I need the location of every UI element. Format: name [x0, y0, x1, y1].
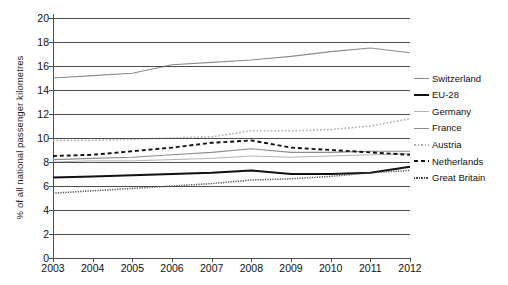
series-line-france: [53, 149, 410, 160]
legend-swatch-icon: [414, 90, 429, 100]
series-line-netherlands: [53, 140, 410, 156]
x-axis-tick-label: 2010: [319, 262, 342, 274]
y-axis-tick-mark: [49, 210, 54, 211]
legend-swatch-icon: [414, 106, 429, 116]
x-axis-tick-label: 2009: [279, 262, 302, 274]
x-axis-tick-label: 2004: [81, 262, 104, 274]
x-axis-tick-label: 2005: [121, 262, 144, 274]
legend-item-label: EU-28: [432, 90, 459, 100]
x-axis-tick-mark: [410, 258, 411, 262]
series-line-eu-28: [53, 167, 410, 178]
gridline: [53, 114, 410, 115]
y-axis-tick-mark: [49, 90, 54, 91]
x-axis-tick-label: 2006: [160, 262, 183, 274]
legend-item-germany[interactable]: Germany: [414, 103, 508, 120]
y-axis-tick-mark: [49, 114, 54, 115]
x-axis-tick-label: 2003: [41, 262, 64, 274]
x-axis-tick-label: 2008: [240, 262, 263, 274]
gridline: [53, 138, 410, 139]
x-axis-tick-mark: [331, 258, 332, 262]
y-axis-tick-mark: [49, 186, 54, 187]
legend-item-label: Austria: [432, 140, 462, 150]
y-axis-tick-mark: [49, 162, 54, 163]
x-axis-tick-mark: [212, 258, 213, 262]
legend-swatch-icon: [414, 173, 429, 183]
legend-item-switzerland[interactable]: Switzerland: [414, 70, 508, 87]
gridline: [53, 42, 410, 43]
y-axis-tick-mark: [49, 18, 54, 19]
plot-area: [53, 18, 410, 258]
y-axis-tick-label: 12: [37, 108, 49, 120]
legend-item-label: Germany: [432, 107, 471, 117]
chart-legend: SwitzerlandEU-28GermanyFranceAustriaNeth…: [414, 70, 508, 186]
legend-item-great-britain[interactable]: Great Britain: [414, 170, 508, 187]
y-axis-tick-mark: [49, 42, 54, 43]
y-axis-tick-label: 14: [37, 84, 49, 96]
gridline: [53, 210, 410, 211]
y-axis-tick-labels: 02468101214161820: [20, 0, 49, 285]
series-line-great-britain: [53, 170, 410, 193]
gridline: [53, 18, 410, 19]
gridline: [53, 258, 410, 259]
legend-item-label: Netherlands: [432, 157, 483, 167]
x-axis-tick-label: 2012: [398, 262, 421, 274]
x-axis-tick-label: 2007: [200, 262, 223, 274]
x-axis-tick-mark: [172, 258, 173, 262]
x-axis-tick-mark: [370, 258, 371, 262]
legend-item-netherlands[interactable]: Netherlands: [414, 153, 508, 170]
gridline: [53, 66, 410, 67]
x-axis-tick-mark: [93, 258, 94, 262]
x-axis-tick-mark: [132, 258, 133, 262]
legend-swatch-icon: [414, 73, 429, 83]
x-axis-tick-mark: [251, 258, 252, 262]
x-axis-tick-mark: [291, 258, 292, 262]
y-axis-tick-mark: [49, 234, 54, 235]
gridline: [53, 234, 410, 235]
y-axis-tick-label: 20: [37, 12, 49, 24]
legend-swatch-icon: [414, 140, 429, 150]
y-axis-tick-mark: [49, 138, 54, 139]
legend-item-france[interactable]: France: [414, 120, 508, 137]
legend-item-label: France: [432, 123, 462, 133]
y-axis-tick-label: 16: [37, 60, 49, 72]
series-line-switzerland: [53, 48, 410, 78]
y-axis-tick-mark: [49, 66, 54, 67]
legend-item-eu-28[interactable]: EU-28: [414, 87, 508, 104]
legend-item-label: Switzerland: [432, 74, 481, 84]
x-axis-tick-mark: [53, 258, 54, 262]
gridline: [53, 186, 410, 187]
y-axis-tick-label: 10: [37, 132, 49, 144]
x-axis-tick-label: 2011: [359, 262, 382, 274]
gridline: [53, 90, 410, 91]
y-axis-tick-label: 18: [37, 36, 49, 48]
legend-item-austria[interactable]: Austria: [414, 136, 508, 153]
legend-swatch-icon: [414, 156, 429, 166]
legend-swatch-icon: [414, 123, 429, 133]
legend-item-label: Great Britain: [432, 173, 485, 183]
line-chart: % of all national passenger kilometres 0…: [0, 0, 508, 285]
gridline: [53, 162, 410, 163]
